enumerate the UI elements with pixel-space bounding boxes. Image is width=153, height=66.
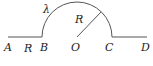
- label-point-b: B: [39, 41, 48, 54]
- label-lambda: λ: [42, 3, 50, 16]
- label-radius: R: [74, 13, 83, 26]
- label-point-a: A: [3, 41, 12, 54]
- label-point-o: O: [71, 41, 80, 54]
- label-point-d: D: [140, 41, 150, 54]
- label-ab-length: R: [23, 42, 32, 55]
- label-point-c: C: [105, 41, 114, 54]
- semicircle-line-diagram: A R B O C D λ R: [0, 0, 153, 66]
